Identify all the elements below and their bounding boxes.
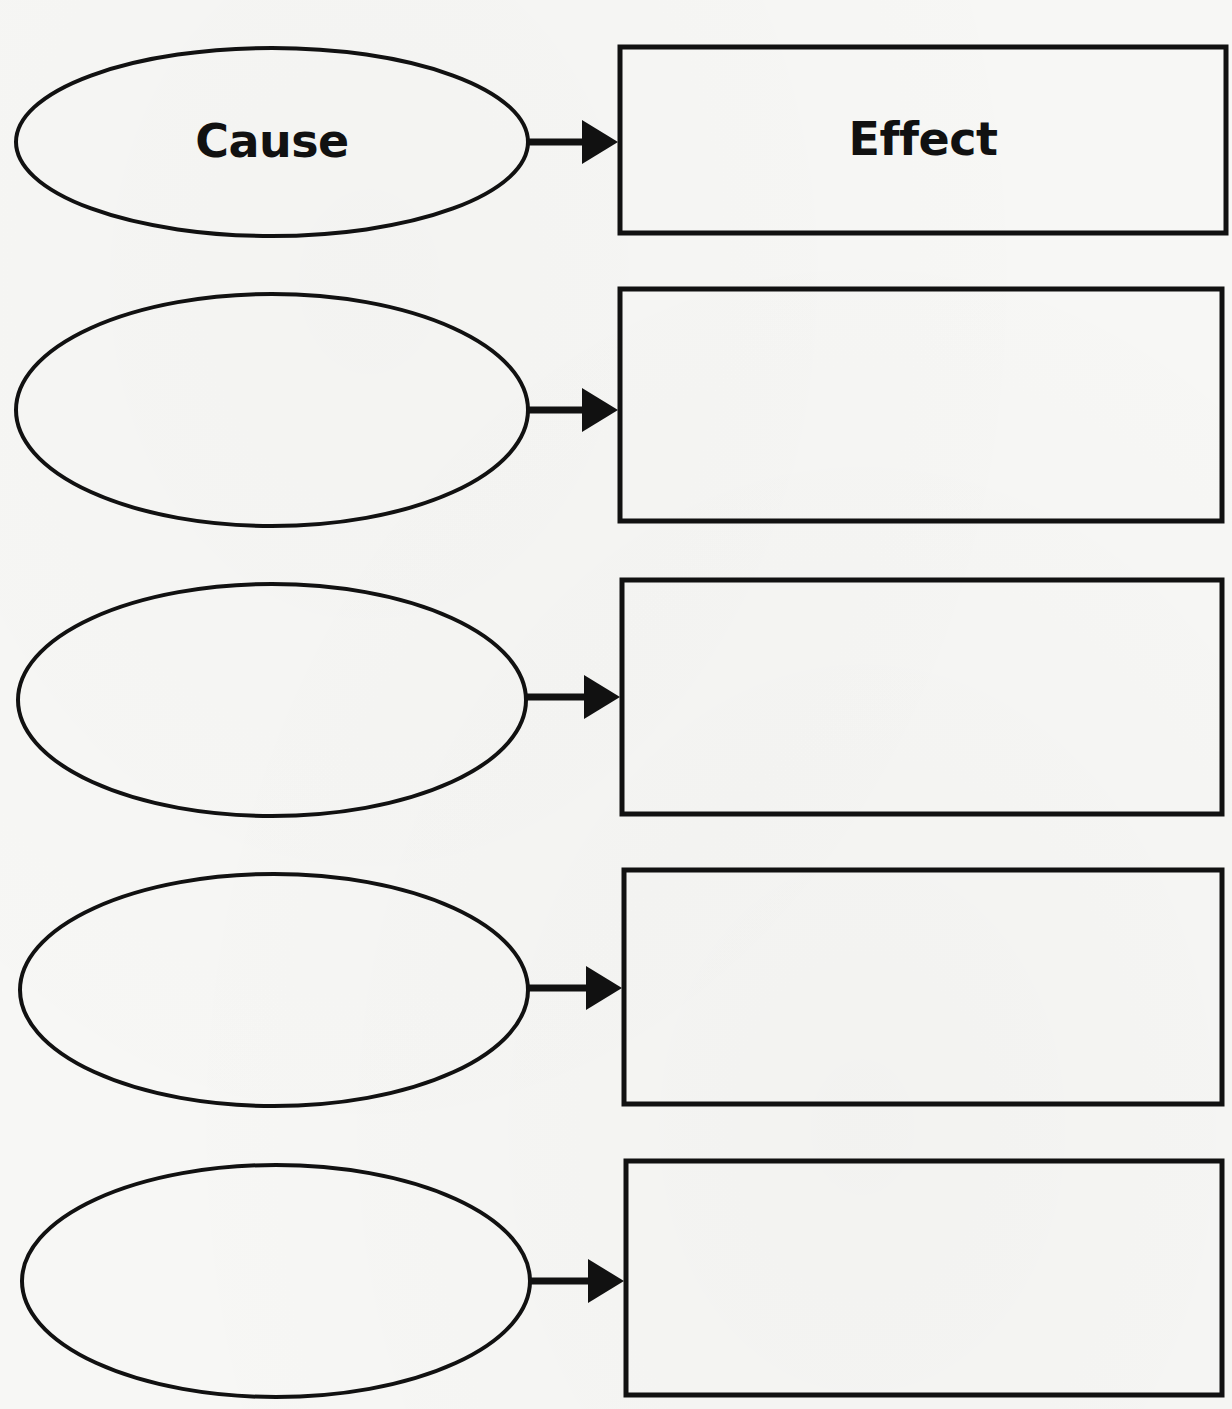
cause-effect-row — [20, 870, 1222, 1106]
cause-oval[interactable] — [20, 874, 528, 1106]
cause-effect-row — [18, 580, 1222, 816]
arrow-right-icon — [586, 966, 622, 1010]
cause-effect-row — [22, 1161, 1222, 1397]
cause-heading: Cause — [72, 118, 472, 164]
cause-oval[interactable] — [16, 294, 528, 526]
effect-box[interactable] — [620, 289, 1222, 521]
effect-box[interactable] — [622, 580, 1222, 814]
effect-box[interactable] — [626, 1161, 1222, 1395]
arrow-right-icon — [582, 120, 618, 164]
cause-oval[interactable] — [18, 584, 526, 816]
effect-box[interactable] — [624, 870, 1222, 1104]
cause-oval[interactable] — [22, 1165, 530, 1397]
cause-effect-organizer — [0, 0, 1232, 1409]
arrow-right-icon — [582, 388, 618, 432]
effect-heading: Effect — [620, 116, 1226, 162]
arrow-right-icon — [584, 675, 620, 719]
arrow-right-icon — [588, 1259, 624, 1303]
cause-effect-row — [16, 289, 1222, 526]
